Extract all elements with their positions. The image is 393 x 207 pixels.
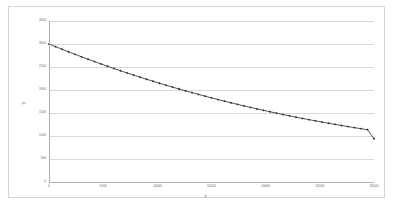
data-point-marker: [106, 65, 108, 67]
data-point-marker: [210, 97, 212, 99]
data-point-marker: [178, 88, 180, 90]
value-axis-tick-labels: 0500100015002000250030003500: [9, 21, 46, 182]
data-point-marker: [119, 70, 121, 72]
value-axis-tick-label: 1500: [39, 111, 46, 114]
data-point-marker: [93, 60, 95, 62]
data-point-marker: [288, 115, 290, 117]
data-point-marker: [340, 124, 342, 126]
data-point-marker: [61, 48, 63, 50]
value-axis-tick-label: 3500: [39, 19, 46, 22]
category-axis-tick-label: 5000: [100, 185, 107, 188]
data-point-marker: [171, 86, 173, 88]
data-point-marker: [100, 63, 102, 65]
category-axis-tick-label: 30000: [370, 185, 379, 188]
category-axis-tick-labels: 050001000015000200002500030000: [49, 185, 374, 193]
data-point-marker: [275, 112, 277, 114]
category-axis-title: q: [9, 195, 393, 198]
category-axis-tick-label: 0: [48, 185, 50, 188]
data-point-marker: [152, 80, 154, 82]
data-point-marker: [87, 58, 89, 60]
chart-container: 0500100015002000250030003500 05000100001…: [8, 6, 385, 198]
series-plot: [49, 21, 374, 182]
data-point-marker: [165, 84, 167, 86]
data-point-marker: [262, 109, 264, 111]
data-point-marker: [158, 82, 160, 84]
value-axis-tick-label: 2000: [39, 88, 46, 91]
data-point-marker: [360, 128, 362, 130]
value-axis-tick-label: 2500: [39, 65, 46, 68]
data-point-marker: [327, 122, 329, 124]
category-axis-tick-label: 20000: [261, 185, 270, 188]
data-point-marker: [269, 111, 271, 113]
data-point-marker: [230, 102, 232, 104]
data-point-marker: [80, 56, 82, 58]
value-axis-tick-label: 0: [44, 180, 46, 183]
data-point-marker: [74, 53, 76, 55]
data-point-marker: [308, 119, 310, 121]
value-axis-tick-label: 1000: [39, 134, 46, 137]
data-point-marker: [204, 95, 206, 97]
value-axis-tick-label: 500: [41, 157, 46, 160]
data-point-marker: [256, 108, 258, 110]
data-point-marker: [282, 113, 284, 115]
data-point-marker: [132, 74, 134, 76]
data-point-marker: [197, 93, 199, 95]
data-point-marker: [295, 116, 297, 118]
data-point-marker: [249, 106, 251, 108]
category-axis-tick-label: 25000: [315, 185, 324, 188]
data-point-marker: [184, 90, 186, 92]
series-line: [49, 44, 374, 139]
category-axis-line: [49, 182, 374, 183]
data-point-marker: [353, 127, 355, 129]
category-axis-tick-label: 15000: [207, 185, 216, 188]
data-point-marker: [243, 105, 245, 107]
data-point-marker: [139, 76, 141, 78]
plot-area: [49, 21, 374, 182]
data-point-marker: [223, 100, 225, 102]
data-point-marker: [191, 92, 193, 94]
data-point-marker: [334, 123, 336, 125]
data-point-marker: [321, 121, 323, 123]
data-point-marker: [301, 117, 303, 119]
data-point-marker: [145, 78, 147, 80]
data-point-marker: [347, 125, 349, 127]
data-point-marker: [126, 72, 128, 74]
value-axis-tick-label: 3000: [39, 42, 46, 45]
value-axis-title: pv: [22, 102, 26, 105]
data-point-marker: [113, 67, 115, 69]
data-point-marker: [236, 103, 238, 105]
category-axis-tick-label: 10000: [153, 185, 162, 188]
data-point-marker: [67, 51, 69, 53]
data-point-marker: [217, 98, 219, 100]
data-point-marker: [314, 120, 316, 122]
value-axis-line: [49, 21, 50, 182]
series-markers: [48, 43, 375, 140]
